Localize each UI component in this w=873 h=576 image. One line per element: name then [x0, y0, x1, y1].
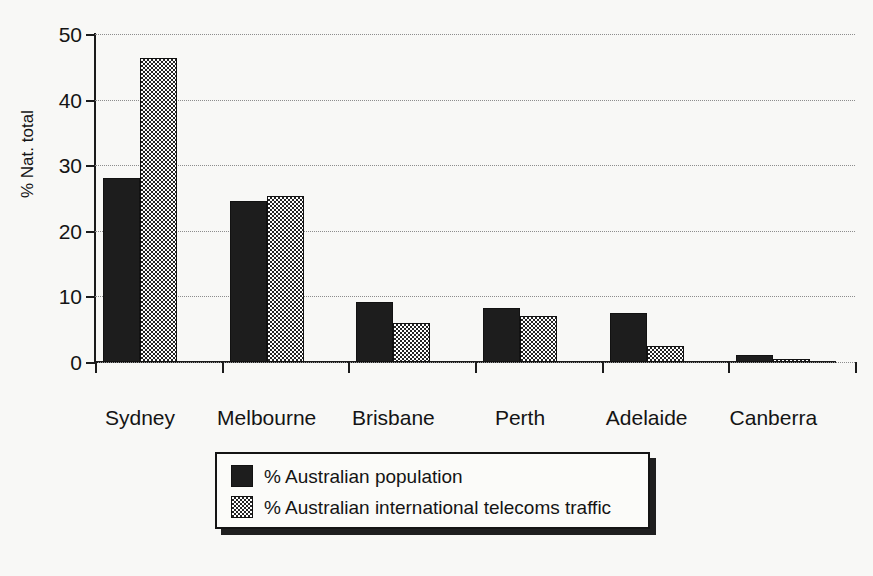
- y-axis-tick-label: 30: [59, 155, 82, 176]
- bar: [483, 308, 520, 362]
- bar-group: [736, 34, 810, 362]
- x-axis-category-label: Canberra: [730, 407, 818, 428]
- y-axis-tick: [86, 231, 95, 233]
- y-axis-tick-label: 20: [59, 220, 82, 241]
- x-axis-tick: [475, 362, 477, 373]
- bar-group: [483, 34, 557, 362]
- y-axis-tick-label: 10: [59, 286, 82, 307]
- x-axis-tick: [222, 362, 224, 373]
- y-axis-tick: [86, 296, 95, 298]
- bar: [393, 323, 430, 362]
- legend-entry-population: % Australian population: [231, 463, 463, 489]
- x-axis-category-label: Melbourne: [217, 407, 316, 428]
- bar: [520, 316, 557, 362]
- bar: [230, 201, 267, 362]
- bar: [610, 313, 647, 362]
- y-axis-tick: [86, 34, 95, 36]
- bar: [267, 196, 304, 362]
- legend-entry-label: % Australian international telecoms traf…: [264, 498, 611, 517]
- bar: [773, 359, 810, 362]
- x-axis-tick: [855, 362, 857, 373]
- bar-chart-figure: % Nat. total 01020304050SydneyMelbourneB…: [0, 0, 873, 576]
- x-axis-tick: [728, 362, 730, 373]
- bar-group: [103, 34, 177, 362]
- y-axis-tick-label: 0: [70, 352, 82, 373]
- bar-group: [356, 34, 430, 362]
- x-axis-category-label: Brisbane: [352, 407, 435, 428]
- y-axis-tick: [86, 100, 95, 102]
- bar-group: [610, 34, 684, 362]
- y-axis-title: % Nat. total: [19, 110, 36, 198]
- bar: [140, 58, 177, 362]
- plot-area: 01020304050SydneyMelbourneBrisbanePerthA…: [95, 34, 855, 362]
- x-axis-tick: [95, 362, 97, 373]
- bar: [736, 355, 773, 362]
- chart-legend: % Australian population % Australian int…: [215, 452, 650, 529]
- bar-group: [230, 34, 304, 362]
- x-axis-category-label: Sydney: [105, 407, 175, 428]
- x-axis-tick: [602, 362, 604, 373]
- solid-black-swatch-icon: [231, 465, 253, 487]
- bar: [356, 302, 393, 362]
- legend-entry-label: % Australian population: [264, 467, 463, 486]
- x-axis-tick: [348, 362, 350, 373]
- x-axis-category-label: Perth: [495, 407, 545, 428]
- y-axis-tick: [86, 362, 95, 364]
- bar: [103, 178, 140, 362]
- checkerboard-swatch-icon: [231, 496, 253, 518]
- y-axis-tick: [86, 165, 95, 167]
- y-axis-tick-label: 40: [59, 89, 82, 110]
- bar: [647, 346, 684, 362]
- legend-entry-telecoms-traffic: % Australian international telecoms traf…: [231, 494, 611, 520]
- y-axis-tick-label: 50: [59, 24, 82, 45]
- x-axis-category-label: Adelaide: [606, 407, 688, 428]
